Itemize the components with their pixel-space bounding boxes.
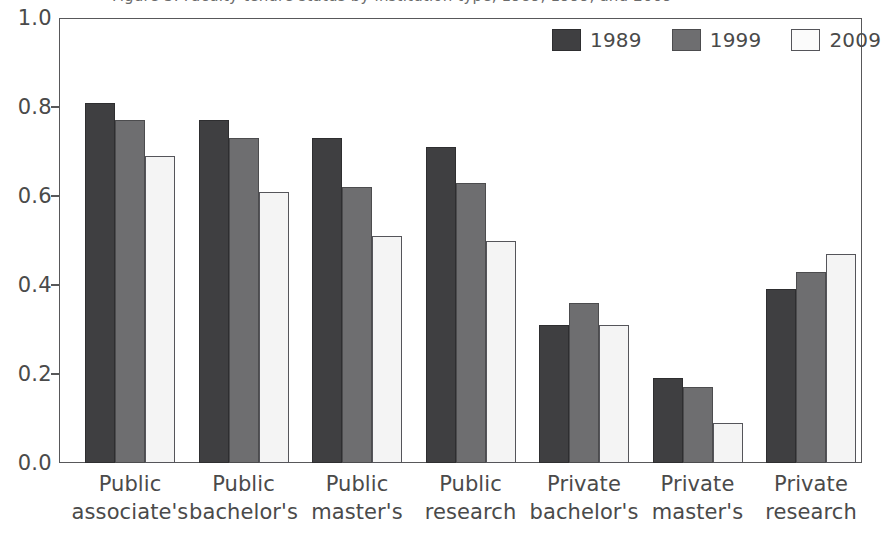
y-tick-label: 0.8 <box>4 95 52 119</box>
legend-label: 1989 <box>590 28 642 52</box>
bar <box>115 120 145 463</box>
y-tick-mark <box>51 373 60 375</box>
bar <box>426 147 456 463</box>
x-category-label: Privateresearch <box>736 470 885 526</box>
y-tick-label: 0.4 <box>4 273 52 297</box>
bar <box>342 187 372 463</box>
legend-item: 2009 <box>791 28 881 52</box>
x-category-line-2: research <box>736 498 885 526</box>
legend-swatch-icon <box>672 29 701 51</box>
bar <box>713 423 743 463</box>
bar <box>259 192 289 463</box>
bar <box>569 303 599 463</box>
bar <box>796 272 826 463</box>
y-tick-label: 0.6 <box>4 184 52 208</box>
bar <box>229 138 259 463</box>
bar <box>683 387 713 463</box>
bar <box>145 156 175 463</box>
bar <box>85 103 115 463</box>
y-axis: 1.00.80.60.40.20.0 <box>0 0 52 534</box>
x-axis: Publicassociate'sPublicbachelor'sPublicm… <box>0 470 877 534</box>
bar <box>599 325 629 463</box>
legend-label: 2009 <box>829 28 881 52</box>
bar-group <box>312 18 402 463</box>
y-tick-mark <box>51 106 60 108</box>
y-tick-mark <box>51 284 60 286</box>
bar <box>653 378 683 463</box>
y-tick-label: 0.2 <box>4 362 52 386</box>
bar-group <box>539 18 629 463</box>
bar-group <box>85 18 175 463</box>
bar-group <box>426 18 516 463</box>
bar <box>766 289 796 463</box>
x-category-line-1: Private <box>736 470 885 498</box>
bar <box>826 254 856 463</box>
legend-swatch-icon <box>791 29 820 51</box>
legend-label: 1999 <box>710 28 762 52</box>
bar-group <box>653 18 743 463</box>
y-tick-mark <box>51 195 60 197</box>
bar <box>456 183 486 463</box>
y-tick-label: 1.0 <box>4 6 52 30</box>
legend-item: 1989 <box>552 28 642 52</box>
bar-group <box>199 18 289 463</box>
bar <box>486 241 516 464</box>
bar <box>312 138 342 463</box>
legend-item: 1999 <box>672 28 762 52</box>
bar <box>372 236 402 463</box>
bar-group <box>766 18 856 463</box>
bar <box>199 120 229 463</box>
legend-swatch-icon <box>552 29 581 51</box>
legend: 198919992009 <box>552 28 881 52</box>
bar <box>539 325 569 463</box>
